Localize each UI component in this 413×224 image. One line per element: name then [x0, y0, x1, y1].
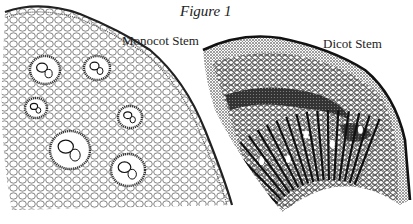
stem-cross-section-figure: Figure 1 Monocot Stem Dicot Stem [0, 0, 413, 224]
figure-title: Figure 1 [180, 3, 232, 20]
dicot-stem-drawing [198, 30, 413, 224]
dicot-stem-label: Dicot Stem [323, 36, 382, 52]
monocot-stem-label: Monocot Stem [122, 33, 199, 49]
monocot-stem-drawing [0, 0, 240, 224]
illustration-canvas [0, 0, 413, 224]
